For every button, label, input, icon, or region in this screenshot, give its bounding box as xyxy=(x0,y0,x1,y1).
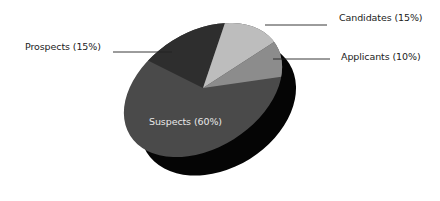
label-candidates: Candidates (15%) xyxy=(339,12,422,23)
label-prospects: Prospects (15%) xyxy=(25,41,101,52)
label-applicants: Applicants (10%) xyxy=(341,51,421,62)
label-suspects: Suspects (60%) xyxy=(149,116,222,127)
pie-chart xyxy=(0,0,440,201)
